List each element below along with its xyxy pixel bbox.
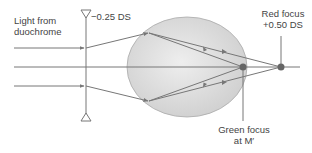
- red-focus-label-line1: Red focus: [258, 8, 308, 19]
- source-label-line2: duochrome: [14, 26, 62, 37]
- red-focus-dot: [278, 64, 285, 71]
- green-focus-label-line1: Green focus: [213, 124, 275, 135]
- green-focus-label-line2: at M′: [213, 135, 275, 146]
- lens-top-triangle-icon: [81, 10, 91, 18]
- green-focus-dot: [240, 64, 247, 71]
- lens-power-label: −0.25 DS: [91, 11, 131, 22]
- red-focus-label-line2: +0.50 DS: [258, 19, 308, 30]
- lens-bottom-triangle-icon: [81, 113, 91, 121]
- red-focus-label: Red focus +0.50 DS: [258, 8, 308, 30]
- green-focus-label: Green focus at M′: [213, 124, 275, 146]
- source-label: Light from duochrome: [14, 15, 62, 37]
- source-label-line1: Light from: [14, 15, 62, 26]
